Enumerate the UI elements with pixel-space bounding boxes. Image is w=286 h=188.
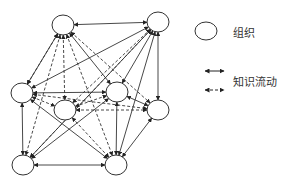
organization-node bbox=[105, 155, 127, 175]
organization-node bbox=[52, 15, 74, 35]
dashed-flow-edge bbox=[63, 35, 65, 100]
solid-flow-edge bbox=[74, 22, 147, 24]
legend-flow-label: 知识流动 bbox=[233, 73, 277, 89]
knowledge-flow-diagram: 组织 知识流动 bbox=[0, 0, 286, 188]
dashed-flow-edge bbox=[72, 118, 109, 158]
dashed-flow-edge bbox=[67, 34, 113, 155]
edges bbox=[22, 22, 158, 165]
organization-node bbox=[54, 100, 76, 120]
solid-flow-edge bbox=[122, 118, 151, 157]
organization-node bbox=[106, 82, 128, 102]
organization-node bbox=[147, 12, 169, 32]
solid-flow-edge bbox=[32, 27, 149, 88]
legend-node-label: 组织 bbox=[233, 24, 255, 40]
solid-flow-edge bbox=[127, 96, 148, 105]
organization-node bbox=[11, 83, 33, 103]
organization-node bbox=[147, 100, 169, 120]
legend-node-icon bbox=[195, 22, 217, 40]
dashed-flow-edge bbox=[32, 97, 55, 106]
solid-flow-edge bbox=[22, 103, 23, 155]
organization-node bbox=[12, 155, 34, 175]
